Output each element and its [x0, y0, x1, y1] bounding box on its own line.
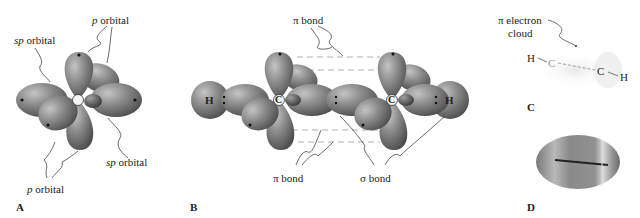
- panel-b-acetylene-bonds: H C C H π bond π bond σ bond B: [180, 0, 480, 218]
- label-sp-orbital-right: sp orbital: [106, 156, 147, 168]
- atom-h-left: H: [527, 52, 535, 64]
- label-pi-electron-cloud-line2: cloud: [508, 27, 532, 39]
- label-text: orbital: [98, 14, 129, 26]
- panel-letter-c: C: [527, 101, 535, 113]
- atom-c-left: C: [548, 57, 555, 69]
- atom-c-left: C: [275, 94, 282, 106]
- atom-c-right: C: [388, 94, 395, 106]
- atom-c-right: C: [597, 65, 604, 77]
- label-text: orbital: [116, 156, 147, 168]
- label-sp-orbital-left: sp orbital: [14, 34, 55, 46]
- label-p-orbital-bottom: p orbital: [27, 183, 64, 195]
- label-pi-electron-cloud-line1: π electron: [498, 14, 542, 26]
- label-pi-bond-bottom: π bond: [273, 172, 303, 184]
- atom-h-left: H: [205, 94, 214, 106]
- panel-d-electron-density: D: [480, 120, 640, 218]
- label-italic: sp: [106, 156, 116, 168]
- label-pi-bond-top: π bond: [293, 14, 323, 26]
- atom-h-right: H: [445, 94, 454, 106]
- electron-density-ellipsoid: [480, 120, 640, 218]
- acetylene-orbital-illustration: [180, 0, 480, 218]
- panel-c-pi-electron-cloud: π electron cloud H C C H C: [480, 0, 640, 120]
- atom-h-right: H: [620, 71, 628, 83]
- panel-letter-a: A: [16, 201, 24, 213]
- label-text: orbital: [33, 183, 64, 195]
- label-text: orbital: [24, 34, 55, 46]
- panel-letter-d: D: [527, 201, 535, 213]
- label-sigma-bond: σ bond: [360, 172, 391, 184]
- label-p-orbital-top: p orbital: [92, 14, 129, 26]
- panel-letter-b: B: [190, 201, 197, 213]
- label-italic: sp: [14, 34, 24, 46]
- panel-a-sp-orbitals: p orbital sp orbital sp orbital p orbita…: [0, 0, 180, 218]
